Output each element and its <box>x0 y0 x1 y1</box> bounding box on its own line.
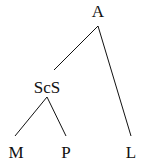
tree-edges <box>0 0 141 166</box>
edge-ScS-M <box>15 97 47 136</box>
edge-A-L <box>98 26 131 136</box>
node-P: P <box>61 144 70 161</box>
edge-A-ScS <box>54 26 98 70</box>
node-M: M <box>8 144 23 161</box>
node-ScS: ScS <box>34 79 60 96</box>
node-L: L <box>126 144 136 161</box>
node-A: A <box>92 3 104 20</box>
edge-ScS-P <box>47 97 66 136</box>
